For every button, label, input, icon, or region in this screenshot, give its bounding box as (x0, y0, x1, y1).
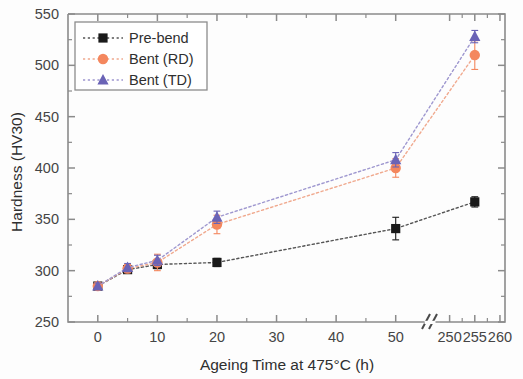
x-tick-label: 0 (94, 329, 102, 345)
marker-square (212, 258, 221, 267)
marker-square (470, 197, 479, 206)
marker-triangle (211, 211, 222, 221)
x-tick-label: 30 (268, 329, 284, 345)
chart-legend: Pre-bendBent (RD)Bent (TD) (75, 22, 207, 90)
x-tick-label: 10 (149, 329, 165, 345)
y-tick-label: 500 (35, 57, 59, 73)
x-tick-label: 20 (209, 329, 225, 345)
marker-square (391, 224, 400, 233)
axis-break-gap (425, 321, 436, 324)
legend-label: Bent (TD) (129, 72, 192, 88)
y-tick-label: 300 (35, 263, 59, 279)
y-tick-label: 450 (35, 109, 59, 125)
x-axis-title: Ageing Time at 475°C (h) (200, 356, 374, 373)
legend-label: Pre-bend (129, 30, 189, 46)
marker-square (98, 33, 107, 42)
x-tick-label: 255 (463, 329, 487, 345)
x-tick-label: 50 (388, 329, 404, 345)
marker-circle (98, 54, 108, 64)
marker-triangle (390, 154, 401, 164)
x-tick-label: 40 (328, 329, 344, 345)
y-tick-label: 400 (35, 160, 59, 176)
marker-triangle (469, 31, 480, 41)
x-tick-label: 260 (488, 329, 512, 345)
x-tick-label: 250 (438, 329, 462, 345)
legend-label: Bent (RD) (129, 51, 193, 67)
y-tick-label: 350 (35, 211, 59, 227)
chart-page: 2503003504004505005500102030405025025526… (0, 0, 523, 379)
marker-circle (470, 50, 480, 60)
series-pre-bend (93, 197, 479, 291)
y-tick-label: 250 (35, 314, 59, 330)
series-line (98, 202, 475, 286)
y-axis-title: Hardness (HV30) (8, 112, 25, 232)
hardness-vs-ageing-time-chart: 2503003504004505005500102030405025025526… (0, 0, 523, 379)
y-tick-label: 550 (35, 6, 59, 22)
